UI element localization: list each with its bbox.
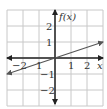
function-graph: f(x) x −2 1 1 2 2 1 −1 −2: [0, 0, 107, 109]
x-axis-label: x: [97, 60, 103, 71]
function-line-up: [55, 42, 103, 58]
y-tick-1: 1: [46, 37, 52, 48]
y-axis-label: f(x): [58, 11, 76, 22]
x-tick-1: 1: [68, 60, 74, 71]
x-tick-neg2: −2: [12, 60, 27, 71]
y-tick-neg2: −2: [40, 85, 55, 96]
y-tick-neg1: −1: [40, 69, 55, 80]
y-tick-2: 2: [46, 21, 52, 32]
x-tick-2: 2: [84, 60, 90, 71]
